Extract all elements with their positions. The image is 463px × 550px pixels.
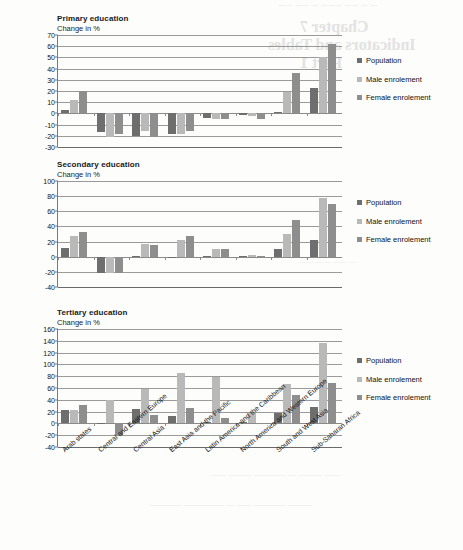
bar <box>97 257 105 274</box>
bar <box>239 113 247 114</box>
x-axis-tick-mark <box>200 113 201 116</box>
legend-item: Population <box>357 199 431 207</box>
bar-group <box>236 181 272 287</box>
bar <box>70 236 78 257</box>
y-axis-tick-label: 30 <box>47 76 55 83</box>
x-axis-tick-mark <box>165 423 166 426</box>
x-axis-tick-mark <box>94 257 95 260</box>
bar <box>168 113 176 133</box>
bar <box>239 256 247 257</box>
legend-label: Female enrolement <box>366 394 431 402</box>
x-axis-tick-mark <box>236 257 237 260</box>
bar <box>283 92 291 113</box>
bar-group <box>165 35 201 147</box>
bar <box>97 113 105 132</box>
y-axis-tick-label: 140 <box>43 337 55 344</box>
y-axis-tick-label: -40 <box>45 444 55 451</box>
chart-panel-secondary-education: Secondary education Change in % 10080604… <box>0 160 463 287</box>
bar <box>257 423 265 424</box>
bar <box>274 249 282 257</box>
bar-group <box>200 181 236 287</box>
bar-groups <box>58 35 342 147</box>
legend-label: Female enrolement <box>366 236 431 244</box>
chart-axis-label: Change in % <box>57 24 463 33</box>
y-axis-tick-label: -10 <box>45 121 55 128</box>
legend-label: Male enrolement <box>366 218 422 226</box>
bar-group <box>236 35 272 147</box>
legend-label: Population <box>366 199 401 207</box>
bar <box>106 257 114 273</box>
bar <box>283 234 291 257</box>
bar <box>186 408 194 423</box>
legend-swatch-icon <box>357 58 362 63</box>
y-axis-tick-label: 40 <box>47 65 55 72</box>
legend-item: Female enrolement <box>357 94 431 102</box>
legend-label: Female enrolement <box>366 94 431 102</box>
bar <box>221 249 229 257</box>
x-axis-tick-mark <box>129 113 130 116</box>
bar <box>257 256 265 257</box>
legend-swatch-icon <box>357 237 362 242</box>
bar <box>310 88 318 114</box>
y-axis-tick-label: 20 <box>47 88 55 95</box>
figure-page: — — —— ——— — —— —— Chapter 7 Indicators … <box>0 0 463 550</box>
y-axis-tick-label: 80 <box>47 193 55 200</box>
bar <box>203 113 211 117</box>
y-axis-tick-label: 40 <box>47 223 55 230</box>
y-axis-tick-label: -30 <box>45 144 55 151</box>
bar <box>79 405 87 423</box>
y-axis-tick-label: 20 <box>47 238 55 245</box>
bar-group <box>271 181 307 287</box>
bar-group <box>58 181 94 287</box>
plot-area: 706050403020100-10-20-30 <box>57 35 342 147</box>
chart-axis-label: Change in % <box>57 318 463 327</box>
bar-group <box>58 35 94 147</box>
x-axis-tick-mark <box>129 257 130 260</box>
bar-group <box>165 181 201 287</box>
bar <box>150 245 158 256</box>
bar <box>70 100 78 113</box>
page-bleed-top: — — —— ——— — —— —— <box>278 2 377 8</box>
bar <box>97 423 105 424</box>
bar <box>132 256 140 257</box>
bar <box>106 400 114 423</box>
bar <box>212 113 220 119</box>
chart-legend: PopulationMale enrolementFemale enroleme… <box>357 57 431 113</box>
bar <box>132 113 140 135</box>
bar <box>177 240 185 257</box>
legend-swatch-icon <box>357 377 362 382</box>
x-axis-category-labels: Arab statesCentral and Eastern EuropeCen… <box>57 442 463 550</box>
bar-group <box>307 181 343 287</box>
y-axis-tick-label: -20 <box>45 268 55 275</box>
bar <box>186 113 194 131</box>
chart-panel-primary-education: Primary education Change in % 7060504030… <box>0 14 463 147</box>
chart-title: Primary education <box>57 14 463 23</box>
legend-swatch-icon <box>357 200 362 205</box>
legend-swatch-icon <box>357 95 362 100</box>
x-axis-tick-mark <box>165 257 166 260</box>
bar <box>106 113 114 137</box>
bar <box>310 240 318 257</box>
legend-item: Female enrolement <box>357 394 431 402</box>
bar-group <box>307 35 343 147</box>
bar-group <box>271 35 307 147</box>
bar <box>186 236 194 256</box>
bar <box>203 256 211 257</box>
bar <box>248 113 256 115</box>
bar <box>168 257 176 258</box>
x-axis-tick-mark <box>94 423 95 426</box>
chart-legend: PopulationMale enrolementFemale enroleme… <box>357 199 431 255</box>
x-axis-tick-mark <box>58 113 59 116</box>
y-axis-tick-label: 60 <box>47 385 55 392</box>
bar <box>257 113 265 119</box>
bar-groups <box>58 181 342 287</box>
legend-item: Population <box>357 57 431 65</box>
bar <box>115 257 123 273</box>
bar <box>141 113 149 131</box>
bar <box>150 415 158 423</box>
bar-group <box>94 35 130 147</box>
y-axis-tick-label: 100 <box>43 361 55 368</box>
bar <box>328 44 336 113</box>
legend-item: Male enrolement <box>357 376 431 384</box>
bar <box>168 416 176 423</box>
